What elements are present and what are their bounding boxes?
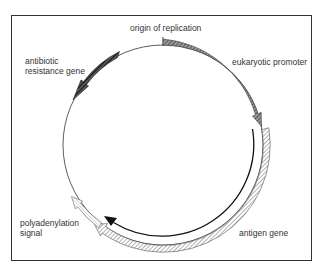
antigen-gene-label: antigen gene [239,229,288,239]
antibiotic-resistance-gene-label: antibiotic resistance gene [25,57,85,76]
origin-of-replication-label: origin of replication [130,24,201,34]
antibiotic-label-line2: resistance gene [25,67,85,77]
eukaryotic-promoter-label: eukaryotic promoter [232,58,307,68]
eukaryotic-promoter-arrow [163,39,262,127]
polya-label-line2: signal [20,229,79,239]
polyadenylation-signal-label: polyadenylation signal [20,219,79,238]
